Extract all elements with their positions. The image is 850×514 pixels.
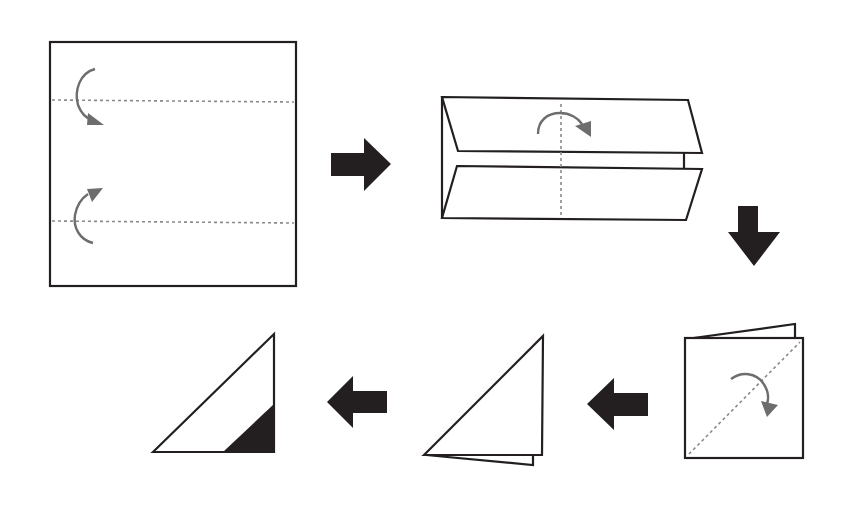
back-layer: [426, 455, 533, 465]
step-3-folded-square: [685, 324, 803, 458]
arrow-left-icon: [327, 376, 387, 428]
folding-diagram: [0, 0, 850, 514]
arrow-down-icon: [728, 206, 780, 266]
front-triangle: [424, 336, 543, 455]
bottom-flap: [442, 166, 702, 220]
step-2-folded-strip: [442, 97, 702, 220]
arrow-right-icon: [331, 138, 391, 191]
step-5-shaded-triangle: [153, 334, 274, 453]
step-4-triangle: [424, 336, 543, 465]
back-flap: [686, 324, 795, 339]
arrow-left-icon: [587, 378, 648, 430]
paper-square: [50, 42, 296, 286]
top-flap: [442, 97, 702, 153]
step-1-square-sheet: [50, 42, 296, 286]
